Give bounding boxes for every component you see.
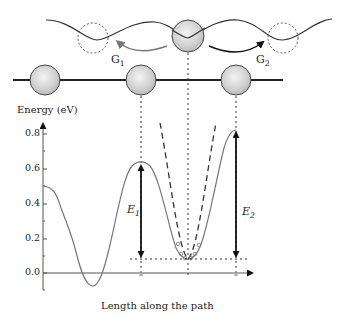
atom-3 (221, 65, 251, 95)
moving-atom (172, 20, 204, 52)
y-axis-title: Energy (eV) (17, 104, 78, 115)
label-g2: G2 (256, 53, 270, 68)
atom-2 (126, 65, 156, 95)
figure: G1 G2 Energy (eV) 0.8 0.6 0.4 0.2 0.0 E1… (0, 0, 349, 317)
y-tick-0.8: 0.8 (25, 127, 40, 138)
atom-1 (30, 65, 60, 95)
label-e2: E2 (242, 205, 255, 220)
arrow-g1 (118, 42, 167, 51)
y-tick-0.2: 0.2 (25, 232, 40, 243)
diagram-graphics (0, 0, 349, 317)
y-tick-0.4: 0.4 (25, 197, 40, 208)
y-tick-0.6: 0.6 (25, 162, 40, 173)
arrow-g2 (209, 42, 263, 52)
label-g1: G1 (111, 53, 125, 68)
y-tick-0.0: 0.0 (25, 266, 40, 277)
x-axis-title: Length along the path (101, 300, 214, 311)
label-e1: E1 (127, 203, 140, 218)
y-axis-ticks (43, 134, 47, 290)
